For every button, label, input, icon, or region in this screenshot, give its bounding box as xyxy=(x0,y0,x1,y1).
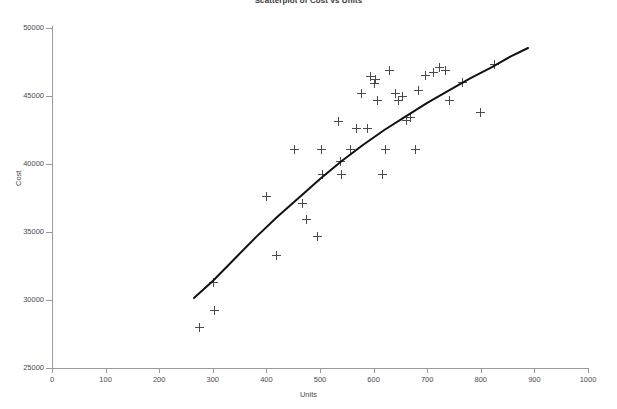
x-tick-label: 0 xyxy=(32,375,72,384)
x-tick xyxy=(52,368,53,373)
data-point xyxy=(262,192,271,201)
x-tick xyxy=(159,368,160,373)
x-tick xyxy=(106,368,107,373)
data-point xyxy=(458,78,467,87)
y-tick-label: 35000 xyxy=(0,228,44,236)
data-point xyxy=(337,170,346,179)
data-point xyxy=(378,170,387,179)
scatter-chart: Scatterplot of Cost vs Units 25000300003… xyxy=(0,0,617,409)
data-point xyxy=(210,306,219,315)
plot-area xyxy=(52,28,588,368)
data-point xyxy=(381,145,390,154)
data-point xyxy=(272,251,281,260)
y-tick-label: 25000 xyxy=(0,364,44,372)
x-tick xyxy=(213,368,214,373)
x-tick xyxy=(534,368,535,373)
x-tick xyxy=(427,368,428,373)
x-tick-label: 800 xyxy=(461,375,501,384)
data-point xyxy=(441,66,450,75)
data-point xyxy=(445,96,454,105)
data-point xyxy=(195,323,204,332)
y-tick-label: 30000 xyxy=(0,296,44,304)
data-point xyxy=(371,75,380,84)
y-axis-title: Cost xyxy=(14,171,23,186)
data-point xyxy=(352,124,361,133)
data-point xyxy=(290,145,299,154)
data-point xyxy=(336,157,345,166)
x-tick-label: 700 xyxy=(407,375,447,384)
y-tick-label: 40000 xyxy=(0,160,44,168)
chart-title: Scatterplot of Cost vs Units xyxy=(0,0,617,5)
data-point xyxy=(357,89,366,98)
data-point xyxy=(490,60,499,69)
x-tick xyxy=(481,368,482,373)
data-point xyxy=(318,170,327,179)
data-point xyxy=(373,96,382,105)
data-point xyxy=(476,108,485,117)
x-tick-label: 300 xyxy=(193,375,233,384)
data-point xyxy=(298,199,307,208)
y-tick-label: 50000 xyxy=(0,24,44,32)
x-axis-title: Units xyxy=(0,390,617,399)
data-point xyxy=(411,145,420,154)
x-tick-label: 500 xyxy=(300,375,340,384)
data-point xyxy=(317,145,326,154)
x-tick-label: 1000 xyxy=(568,375,608,384)
data-point xyxy=(414,86,423,95)
x-tick-label: 200 xyxy=(139,375,179,384)
data-point xyxy=(398,92,407,101)
data-point xyxy=(302,215,311,224)
data-point xyxy=(346,145,355,154)
x-tick xyxy=(320,368,321,373)
x-tick-label: 900 xyxy=(514,375,554,384)
data-point xyxy=(313,232,322,241)
y-tick-label: 45000 xyxy=(0,92,44,100)
x-tick xyxy=(374,368,375,373)
x-tick xyxy=(266,368,267,373)
data-point xyxy=(334,117,343,126)
data-point xyxy=(363,124,372,133)
data-point xyxy=(209,278,218,287)
data-point xyxy=(385,66,394,75)
data-point xyxy=(406,113,415,122)
x-tick-label: 600 xyxy=(354,375,394,384)
x-tick-label: 400 xyxy=(246,375,286,384)
x-tick-label: 100 xyxy=(86,375,126,384)
x-tick xyxy=(588,368,589,373)
